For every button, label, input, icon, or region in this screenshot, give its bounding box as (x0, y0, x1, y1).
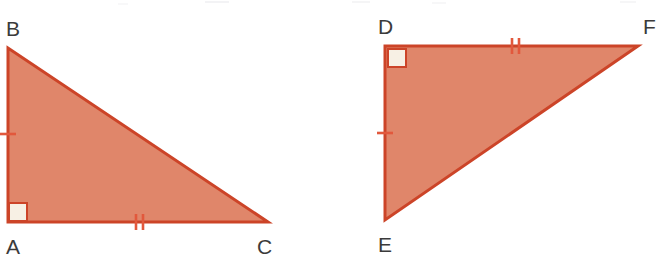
vertex-label-f: F (643, 15, 656, 38)
triangle-def-group: D E F (377, 15, 656, 256)
vertex-label-e: E (378, 233, 392, 256)
right-angle-marker-d (388, 49, 406, 67)
triangle-def-shape (385, 46, 638, 220)
scan-artifacts (118, 1, 636, 5)
vertex-label-d: D (378, 15, 393, 38)
vertex-label-c: C (257, 235, 272, 258)
right-angle-marker-a (9, 203, 27, 221)
vertex-label-a: A (6, 235, 20, 258)
geometry-diagram: B A C D E F (0, 0, 661, 264)
geometry-figure-canvas: B A C D E F (0, 0, 661, 264)
vertex-label-b: B (6, 17, 20, 40)
triangle-abc-group: B A C (0, 17, 272, 258)
triangle-abc-shape (8, 48, 268, 222)
